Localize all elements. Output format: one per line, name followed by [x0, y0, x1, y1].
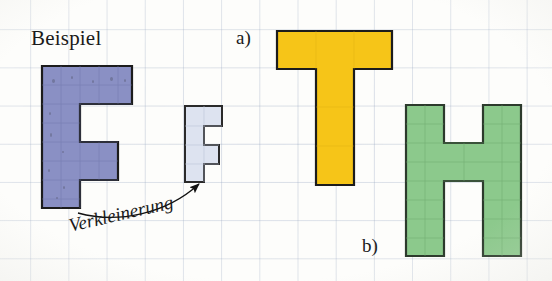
task-label-b: b): [362, 236, 378, 255]
task-label-a: a): [236, 28, 251, 47]
example-label: Beispiel: [31, 28, 101, 49]
worksheet-canvas: Beispiel a) b) Verkleinerung: [0, 0, 552, 281]
